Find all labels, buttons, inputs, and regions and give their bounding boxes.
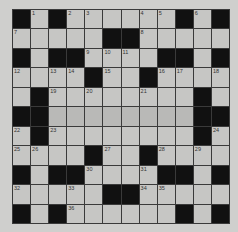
crossword-cell[interactable]: 7 [13,29,30,47]
crossword-cell[interactable]: 30 [85,166,102,184]
crossword-cell[interactable] [67,107,84,125]
crossword-cell[interactable] [49,185,66,203]
crossword-cell[interactable] [158,29,175,47]
crossword-cell[interactable]: 8 [140,29,157,47]
crossword-cell[interactable] [140,205,157,223]
crossword-cell[interactable] [176,29,193,47]
crossword-cell[interactable]: 21 [140,88,157,106]
crossword-cell[interactable]: 15 [103,68,120,86]
crossword-cell[interactable]: 4 [140,10,157,28]
crossword-cell[interactable] [31,205,48,223]
crossword-cell[interactable]: 25 [13,146,30,164]
crossword-cell[interactable] [122,127,139,145]
crossword-cell[interactable]: 5 [158,10,175,28]
crossword-cell[interactable] [85,185,102,203]
crossword-cell[interactable] [176,146,193,164]
crossword-cell[interactable] [103,88,120,106]
crossword-cell[interactable] [49,107,66,125]
crossword-cell[interactable] [122,88,139,106]
crossword-cell[interactable] [31,68,48,86]
crossword-cell[interactable]: 3 [85,10,102,28]
crossword-cell[interactable] [212,88,229,106]
crossword-cell[interactable] [31,49,48,67]
crossword-cell[interactable]: 13 [49,68,66,86]
crossword-cell[interactable]: 29 [194,146,211,164]
crossword-cell[interactable]: 31 [140,166,157,184]
crossword-cell[interactable] [122,146,139,164]
crossword-cell[interactable] [212,29,229,47]
crossword-cell[interactable] [194,68,211,86]
crossword-cell[interactable] [31,29,48,47]
crossword-cell[interactable]: 2 [67,10,84,28]
crossword-cell[interactable] [85,127,102,145]
crossword-cell[interactable] [212,146,229,164]
crossword-cell[interactable]: 14 [67,68,84,86]
crossword-cell[interactable]: 18 [212,68,229,86]
crossword-cell[interactable] [31,185,48,203]
crossword-cell[interactable] [122,205,139,223]
crossword-cell[interactable] [212,185,229,203]
crossword-cell[interactable] [67,146,84,164]
crossword-cell[interactable]: 20 [85,88,102,106]
crossword-cell[interactable] [85,29,102,47]
crossword-cell[interactable]: 6 [194,10,211,28]
crossword-cell[interactable] [67,29,84,47]
crossword-cell[interactable] [103,127,120,145]
crossword-cell[interactable]: 36 [67,205,84,223]
crossword-cell[interactable]: 27 [103,146,120,164]
crossword-cell[interactable] [31,166,48,184]
crossword-cell[interactable] [194,29,211,47]
crossword-cell[interactable] [176,185,193,203]
crossword-cell[interactable] [176,88,193,106]
crossword-cell[interactable] [194,185,211,203]
clue-number: 22 [14,127,20,133]
black-square [13,107,30,125]
crossword-cell[interactable]: 33 [67,185,84,203]
crossword-cell[interactable] [103,166,120,184]
crossword-cell[interactable] [176,107,193,125]
crossword-cell[interactable]: 35 [158,185,175,203]
crossword-cell[interactable]: 16 [158,68,175,86]
crossword-cell[interactable]: 32 [13,185,30,203]
crossword-cell[interactable] [122,68,139,86]
crossword-cell[interactable] [194,166,211,184]
crossword-cell[interactable]: 1 [31,10,48,28]
crossword-cell[interactable] [49,146,66,164]
crossword-cell[interactable]: 17 [176,68,193,86]
clue-number: 3 [86,10,89,16]
crossword-cell[interactable] [122,107,139,125]
crossword-cell[interactable]: 26 [31,146,48,164]
crossword-cell[interactable] [13,88,30,106]
crossword-cell[interactable] [67,88,84,106]
crossword-cell[interactable] [140,49,157,67]
crossword-cell[interactable]: 24 [212,127,229,145]
crossword-cell[interactable]: 11 [122,49,139,67]
crossword-cell[interactable]: 9 [85,49,102,67]
crossword-cell[interactable]: 19 [49,88,66,106]
crossword-cell[interactable] [122,166,139,184]
crossword-cell[interactable] [103,107,120,125]
crossword-cell[interactable]: 23 [49,127,66,145]
crossword-cell[interactable] [158,127,175,145]
black-square [103,29,120,47]
crossword-cell[interactable] [140,107,157,125]
crossword-cell[interactable]: 22 [13,127,30,145]
crossword-cell[interactable]: 12 [13,68,30,86]
crossword-cell[interactable] [67,127,84,145]
crossword-cell[interactable]: 28 [158,146,175,164]
crossword-cell[interactable] [194,49,211,67]
crossword-cell[interactable] [103,205,120,223]
crossword-cell[interactable] [85,205,102,223]
crossword-cell[interactable]: 34 [140,185,157,203]
crossword-cell[interactable] [122,10,139,28]
crossword-cell[interactable] [140,127,157,145]
crossword-cell[interactable] [158,88,175,106]
crossword-cell[interactable] [176,127,193,145]
crossword-cell[interactable] [158,205,175,223]
crossword-cell[interactable] [194,205,211,223]
crossword-cell[interactable] [49,29,66,47]
crossword-cell[interactable] [158,107,175,125]
crossword-cell[interactable] [85,107,102,125]
crossword-cell[interactable]: 10 [103,49,120,67]
crossword-cell[interactable] [103,10,120,28]
